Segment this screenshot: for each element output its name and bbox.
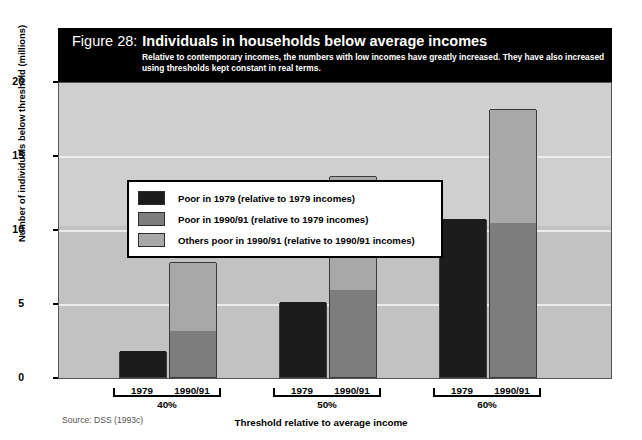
legend-label: Others poor in 1990/91 (relative to 1990…: [178, 235, 415, 246]
figure-container: Figure 28: Individuals in households bel…: [0, 0, 642, 440]
bar-40pct-1990-91: [169, 263, 217, 378]
legend-item: Others poor in 1990/91 (relative to 1990…: [138, 231, 432, 249]
page-title: Individuals in households below average …: [142, 33, 487, 49]
source-note: Source: DSS (1993c): [62, 415, 143, 425]
x-axis-sub-label: 1990/91: [482, 385, 542, 396]
bar-segment: [280, 302, 326, 377]
x-axis-sub-label: 1990/91: [162, 385, 222, 396]
bar-segment: [490, 223, 536, 377]
legend-swatch-others-poor: [138, 233, 165, 247]
figure-subtitle: Relative to contemporary incomes, the nu…: [142, 52, 612, 74]
legend-item: Poor in 1979 (relative to 1979 incomes): [138, 189, 432, 207]
y-axis-tick-label: 5: [0, 297, 24, 309]
y-axis-tick-label: 15: [0, 149, 24, 161]
bar-50pct-1979: [279, 303, 327, 378]
bar-60pct-1979: [439, 220, 487, 378]
bar-segment: [170, 331, 216, 377]
bar-60pct-1990-91: [489, 110, 537, 378]
x-axis-group-label: 60%: [433, 399, 541, 410]
bar-segment: [440, 219, 486, 377]
y-axis-tick-label: 10: [0, 223, 24, 235]
y-axis-tick-label: 20: [0, 75, 24, 87]
title-row: Figure 28: Individuals in households bel…: [72, 33, 602, 49]
bar-segment: [490, 109, 536, 223]
legend-label: Poor in 1990/91 (relative to 1979 income…: [178, 214, 368, 225]
legend-item: Poor in 1990/91 (relative to 1979 income…: [138, 210, 432, 228]
x-axis-sub-label: 1990/91: [322, 385, 382, 396]
chart-legend: Poor in 1979 (relative to 1979 incomes) …: [127, 180, 443, 258]
x-axis-group-label: 50%: [273, 399, 381, 410]
x-axis-group-label: 40%: [113, 399, 221, 410]
legend-label: Poor in 1979 (relative to 1979 incomes): [178, 193, 355, 204]
bar-segment: [170, 262, 216, 331]
legend-swatch-poor-1990-91: [138, 212, 165, 226]
bar-segment: [330, 290, 376, 377]
y-axis-tick-label: 0: [0, 371, 24, 383]
legend-swatch-poor-1979: [138, 191, 165, 205]
bar-segment: [120, 351, 166, 377]
figure-header-banner: Figure 28: Individuals in households bel…: [58, 28, 612, 82]
bar-40pct-1979: [119, 352, 167, 378]
figure-number: Figure 28:: [72, 33, 137, 49]
plot-area: Poor in 1979 (relative to 1979 incomes) …: [58, 82, 612, 379]
